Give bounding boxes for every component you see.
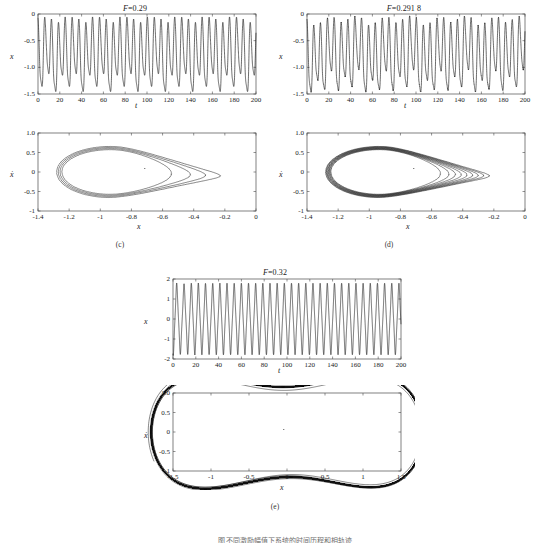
tick-label-y: 0.5: [143, 409, 170, 417]
tick-label-x: -0.6: [157, 213, 168, 221]
tick-label-x: 140: [454, 96, 465, 104]
tick-label-y: -1: [143, 467, 170, 475]
tick-label-x: 0: [305, 96, 309, 104]
tick-label-x: 40: [215, 361, 222, 369]
panel-c-timeseries-xlabel: t: [135, 101, 137, 110]
panel-d: F=0.291 8 t x x ẋ (d) 02040608010012014…: [269, 0, 539, 255]
tick-label-x: 0: [285, 473, 289, 481]
figure-caption: 图 不同激励幅值下系统的时间历程和相轨迹: [120, 535, 450, 543]
tick-label-x: -1.2: [64, 213, 75, 221]
tick-label-y: -0.5: [8, 188, 35, 196]
tick-label-x: 0: [523, 213, 527, 221]
tick-label-x: 100: [282, 361, 293, 369]
tick-label-x: -0.2: [219, 213, 230, 221]
tick-label-x: 60: [369, 96, 376, 104]
panel-c-timeseries-ylabel: x: [10, 52, 14, 61]
panel-e: F=0.32 t x x ẋ (e) 02040608010012014016…: [135, 265, 415, 535]
tick-label-y: 1.0: [143, 389, 170, 397]
tick-label-x: 120: [305, 361, 316, 369]
tick-label-x: -0.6: [426, 213, 437, 221]
panel-c-label: (c): [105, 240, 135, 249]
tick-label-x: 140: [327, 361, 338, 369]
tick-label-x: -1: [208, 473, 214, 481]
tick-label-x: 60: [238, 361, 245, 369]
tick-label-x: -0.8: [126, 213, 137, 221]
tick-label-x: -0.4: [188, 213, 199, 221]
tick-label-x: 160: [476, 96, 487, 104]
panel-e-label: (e): [260, 502, 290, 511]
tick-label-x: 200: [520, 96, 531, 104]
tick-label-x: 1.5: [397, 473, 406, 481]
tick-label-y: -2: [143, 355, 170, 363]
tick-label-y: -0.5: [8, 37, 35, 45]
tick-label-x: 140: [185, 96, 196, 104]
tick-label-x: -1.2: [333, 213, 344, 221]
tick-label-x: 20: [325, 96, 332, 104]
tick-label-x: 1: [361, 473, 365, 481]
tick-label-y: -0.5: [277, 37, 304, 45]
tick-label-x: 20: [192, 361, 199, 369]
tick-label-x: -0.8: [395, 213, 406, 221]
tick-label-y: -1.0: [277, 63, 304, 71]
panel-e-phase-xlabel: x: [280, 483, 284, 492]
panel-e-phase-ylabel: ẋ: [144, 431, 424, 440]
tick-label-y: -1: [143, 335, 170, 343]
tick-label-y: 0: [8, 168, 35, 176]
tick-label-y: -1: [277, 207, 304, 215]
panel-d-timeseries-ylabel: x: [279, 52, 283, 61]
tick-label-x: 40: [347, 96, 354, 104]
tick-label-x: 100: [142, 96, 153, 104]
panel-c-phase-ylabel: ẋ: [10, 170, 280, 179]
tick-label-y: -1.5: [277, 90, 304, 98]
panel-d-timeseries-xlabel: t: [404, 101, 406, 110]
tick-label-y: -0.5: [277, 188, 304, 196]
tick-label-x: -0.2: [488, 213, 499, 221]
tick-label-x: 160: [207, 96, 218, 104]
tick-label-y: 0: [277, 168, 304, 176]
tick-label-x: 40: [78, 96, 85, 104]
tick-label-x: 100: [411, 96, 422, 104]
panel-c-phase-xlabel: x: [137, 222, 141, 231]
tick-label-x: -0.5: [243, 473, 254, 481]
tick-label-x: 200: [396, 361, 407, 369]
tick-label-x: 0: [254, 213, 258, 221]
tick-label-y: 1.0: [8, 129, 35, 137]
tick-label-y: -1: [8, 207, 35, 215]
tick-label-y: -1.5: [8, 90, 35, 98]
tick-label-x: 0.5: [321, 473, 330, 481]
tick-label-x: 160: [350, 361, 361, 369]
tick-label-x: 20: [56, 96, 63, 104]
tick-label-x: 120: [433, 96, 444, 104]
panel-d-label: (d): [374, 240, 404, 249]
tick-label-x: 120: [164, 96, 175, 104]
panel-e-timeseries-xlabel: t: [278, 366, 280, 375]
tick-label-y: 1: [143, 295, 170, 303]
tick-label-y: -1.0: [8, 63, 35, 71]
tick-label-x: 80: [261, 361, 268, 369]
tick-label-y: 1.0: [277, 129, 304, 137]
tick-label-x: 60: [100, 96, 107, 104]
tick-label-y: 0: [143, 315, 170, 323]
tick-label-y: -0.5: [143, 448, 170, 456]
panel-d-phase-xlabel: x: [406, 222, 410, 231]
tick-label-x: 180: [373, 361, 384, 369]
tick-label-y: 2: [143, 275, 170, 283]
tick-label-x: 80: [122, 96, 129, 104]
tick-label-y: 0: [277, 10, 304, 18]
tick-label-x: 180: [229, 96, 240, 104]
panel-d-phase-ylabel: ẋ: [279, 170, 539, 179]
panel-c: F=0.29 t x x ẋ (c) 02040608010012014016…: [0, 0, 270, 255]
tick-label-x: 200: [251, 96, 262, 104]
tick-label-x: 180: [498, 96, 509, 104]
tick-label-y: 0: [143, 428, 170, 436]
tick-label-x: -1: [366, 213, 372, 221]
tick-label-x: -1: [97, 213, 103, 221]
tick-label-x: 80: [391, 96, 398, 104]
tick-label-x: -0.4: [457, 213, 468, 221]
tick-label-x: 0: [171, 361, 175, 369]
tick-label-x: 0: [36, 96, 40, 104]
tick-label-y: 0: [8, 10, 35, 18]
tick-label-y: 0.5: [8, 149, 35, 157]
tick-label-y: 0.5: [277, 149, 304, 157]
